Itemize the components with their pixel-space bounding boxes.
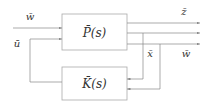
output-z-label: z̄ [180,6,187,17]
output-x-label: x̄ [147,48,153,59]
output-w-label: w̄ [182,48,191,59]
input-w-label: w̄ [26,11,35,22]
block-diagram: P̄(s) K̄(s) w̄ ū z̄ x̄ w̄ [0,0,207,105]
feedback-u-arrow [30,39,62,82]
plant-label: P̄(s) [82,25,107,40]
w-feedback-arrow [127,44,160,89]
x-feedback-arrow [127,33,143,79]
input-u-label: ū [14,38,20,49]
diagram-canvas: P̄(s) K̄(s) w̄ ū z̄ x̄ w̄ [0,0,207,105]
controller-block: K̄(s) [62,67,127,100]
controller-label: K̄(s) [81,76,107,91]
plant-block: P̄(s) [62,14,127,50]
